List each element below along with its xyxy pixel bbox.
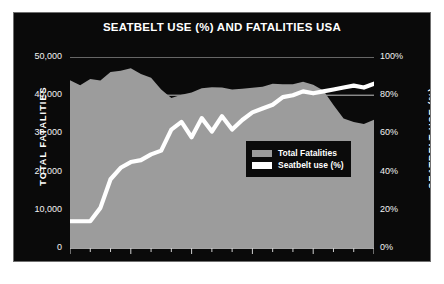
y-axis-left-tick-label: 40,000 xyxy=(13,89,62,99)
x-axis-tickmarks xyxy=(70,248,374,254)
x-axis-tick-label: 1982 xyxy=(59,258,80,262)
chart-title: SEATBELT USE (%) AND FATALITIES USA xyxy=(14,21,430,33)
y-axis-left-tick-label: 20,000 xyxy=(13,166,62,176)
y-axis-left-tick-label: 50,000 xyxy=(13,51,62,61)
legend-label-seatbelt-use: Seatbelt use (%) xyxy=(278,160,344,170)
legend-swatch-area-icon xyxy=(252,150,272,157)
legend-item-seatbelt-use: Seatbelt use (%) xyxy=(252,160,344,170)
y-axis-right-tick-label: 60% xyxy=(380,127,398,137)
x-axis-tick-label: 2012 xyxy=(363,258,384,262)
x-axis-tick-label: 2006 xyxy=(303,258,324,262)
y-axis-right-tick-label: 100% xyxy=(380,51,403,61)
y-axis-right-tick-label: 40% xyxy=(380,166,398,176)
y-axis-left-tick-label: 0 xyxy=(13,242,62,252)
x-axis-tick-label: 2000 xyxy=(242,258,263,262)
x-axis-tick-label: 1988 xyxy=(120,258,141,262)
legend-item-total-fatalities: Total Fatalities xyxy=(252,148,344,158)
chart-legend: Total Fatalities Seatbelt use (%) xyxy=(246,141,351,177)
chart-panel: SEATBELT USE (%) AND FATALITIES USA TOTA… xyxy=(13,12,431,262)
y-axis-right-tick-label: 80% xyxy=(380,89,398,99)
y-axis-right-tick-label: 0% xyxy=(380,242,393,252)
legend-swatch-line-icon xyxy=(252,162,272,169)
y-axis-right-tick-label: 20% xyxy=(380,204,398,214)
legend-label-total-fatalities: Total Fatalities xyxy=(278,148,337,158)
x-axis-tick-label: 1994 xyxy=(181,258,202,262)
y-axis-left-tick-label: 10,000 xyxy=(13,204,62,214)
y-axis-left-tick-label: 30,000 xyxy=(13,127,62,137)
y-axis-title-right: SEATBELT USE (%) xyxy=(427,78,431,198)
